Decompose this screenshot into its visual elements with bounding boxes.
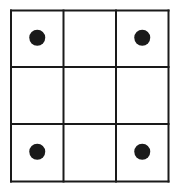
dot-marker: [134, 30, 150, 46]
grid-cell: [64, 11, 117, 68]
dot-marker: [29, 144, 45, 160]
dot-marker: [134, 144, 150, 160]
dot-marker: [29, 30, 45, 46]
grid-cell: [11, 67, 64, 124]
grid-cell: [64, 124, 117, 182]
grid-cell: [116, 67, 169, 124]
grid-cell: [64, 67, 117, 124]
three-by-three-grid: [0, 0, 177, 191]
